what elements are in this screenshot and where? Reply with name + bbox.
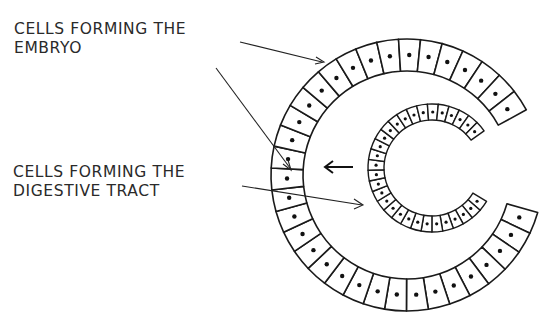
- cell-nucleus: [340, 274, 344, 278]
- cell-nucleus: [431, 110, 434, 113]
- cell-nucleus: [395, 292, 399, 296]
- cell-nucleus: [407, 217, 410, 220]
- cell-nucleus: [285, 176, 289, 180]
- cell-nucleus: [311, 248, 315, 252]
- cell-nucleus: [388, 54, 392, 58]
- cell-nucleus: [391, 207, 394, 210]
- cell-nucleus: [320, 88, 324, 92]
- cell-nucleus: [469, 207, 472, 210]
- cell-nucleus: [297, 120, 301, 124]
- cell-nucleus: [426, 55, 430, 59]
- outer-cell-layer: [271, 39, 538, 311]
- cell-nucleus: [445, 60, 449, 64]
- cell-nucleus: [325, 262, 329, 266]
- cell-nucleus: [469, 274, 473, 278]
- cell-nucleus: [380, 191, 383, 194]
- cell-nucleus: [426, 222, 429, 225]
- cell-nucleus: [493, 92, 497, 96]
- cell-nucleus: [450, 114, 453, 117]
- cell-nucleus: [404, 117, 407, 120]
- cell-nucleus: [374, 164, 377, 167]
- cell-nucleus: [453, 217, 456, 220]
- cell-nucleus: [416, 221, 419, 224]
- cell-nucleus: [376, 154, 379, 157]
- cell-nucleus: [509, 233, 513, 237]
- cell-nucleus: [466, 123, 469, 126]
- pointer-line-embryo-1: [240, 42, 322, 62]
- cell-nucleus: [517, 215, 521, 219]
- cell-nucleus: [377, 182, 380, 185]
- cell-nucleus: [473, 130, 476, 133]
- cell-nucleus: [414, 292, 418, 296]
- cell-nucleus: [290, 138, 294, 142]
- cell-nucleus: [292, 214, 296, 218]
- cell-nucleus: [441, 111, 444, 114]
- cell-nucleus: [375, 173, 378, 176]
- cell-nucleus: [357, 283, 361, 287]
- cell-nucleus: [407, 53, 411, 57]
- cell-nucleus: [375, 289, 379, 293]
- cell-nucleus: [287, 196, 291, 200]
- pointer-line-embryo-2: [216, 68, 290, 168]
- cell-nucleus: [505, 107, 509, 111]
- cell-nucleus: [383, 137, 386, 140]
- cell-nucleus: [433, 289, 437, 293]
- inner-cell-layer: [368, 104, 487, 232]
- cell-nucleus: [462, 213, 465, 216]
- cell-nucleus: [484, 263, 488, 267]
- cell-nucleus: [463, 68, 467, 72]
- cell-nucleus: [498, 249, 502, 253]
- cell-nucleus: [307, 103, 311, 107]
- cell-nucleus: [435, 222, 438, 225]
- cell-nucleus: [458, 118, 461, 121]
- cell-nucleus: [334, 76, 338, 80]
- cell-nucleus: [369, 58, 373, 62]
- cell-nucleus: [389, 129, 392, 132]
- embryo-gastrula-diagram: [0, 0, 557, 329]
- cell-nucleus: [399, 213, 402, 216]
- cell-nucleus: [475, 200, 478, 203]
- cell-nucleus: [479, 78, 483, 82]
- cell-nucleus: [385, 199, 388, 202]
- cell-nucleus: [412, 113, 415, 116]
- cell-nucleus: [379, 145, 382, 148]
- cell-nucleus: [396, 122, 399, 125]
- cell-nucleus: [444, 221, 447, 224]
- cell-nucleus: [300, 232, 304, 236]
- cell-nucleus: [351, 66, 355, 70]
- cell-nucleus: [452, 283, 456, 287]
- cell-nucleus: [422, 111, 425, 114]
- invagination-arrow-icon: [325, 161, 353, 173]
